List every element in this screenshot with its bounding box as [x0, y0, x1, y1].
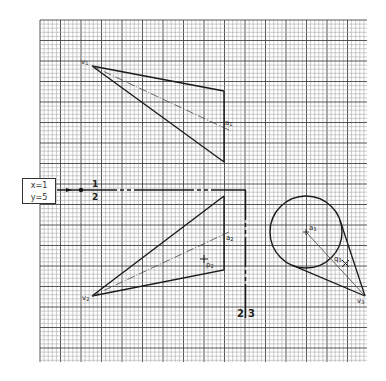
axis-label-a2: a2	[226, 234, 233, 242]
divider-label-2-horizontal: 2	[92, 192, 98, 202]
tangent-line-lower	[292, 265, 365, 296]
axis-label-a3: a3	[309, 224, 316, 232]
diagram-canvas: v1 a1 v2 a2 p2 a3 q3 v3	[0, 0, 386, 381]
point-label-p2: p2	[206, 261, 214, 269]
origin-dot	[79, 188, 83, 192]
graph-paper-grid	[40, 20, 367, 362]
tangent-line-upper	[340, 221, 365, 296]
arrow-marker	[66, 188, 72, 192]
point-label-q3: q3	[334, 255, 342, 263]
vertex-label-v1: v1	[81, 58, 88, 66]
panel-3-cone: a3 q3 v3	[270, 196, 365, 305]
coord-y: y=5	[23, 192, 55, 204]
axis-label-a1: a1	[225, 119, 232, 127]
axis-line-1	[92, 66, 231, 131]
divider-label-2-vertical: 2	[237, 308, 244, 319]
vertex-label-v3: v3	[357, 297, 364, 305]
coord-x: x=1	[23, 180, 55, 192]
divider-label-1: 1	[92, 179, 98, 189]
vertex-label-v2: v2	[82, 294, 89, 302]
coordinates-box: x=1 y=5	[22, 178, 56, 204]
divider-label-3: 3	[248, 308, 255, 319]
